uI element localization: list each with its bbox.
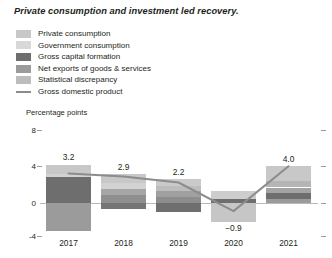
legend-swatch-government-consumption	[16, 41, 31, 49]
x-tick-label-2017: 2017	[39, 238, 99, 248]
legend-label-government-consumption: Government consumption	[38, 40, 130, 52]
legend-swatch-gross-capital-formation	[16, 53, 31, 61]
x-tick-label-2018: 2018	[94, 238, 154, 248]
x-tick-label-2020: 2020	[204, 238, 264, 248]
legend-label-net-exports: Net exports of goods & services	[38, 63, 151, 75]
legend-label-gross-capital-formation: Gross capital formation	[38, 51, 120, 63]
y-tick-mark-right-8	[321, 130, 326, 131]
legend-item-net-exports: Net exports of goods & services	[16, 63, 151, 75]
chart-title: Private consumption and investment led r…	[14, 6, 239, 16]
y-tick-mark-neg4	[37, 236, 42, 237]
y-tick-mark-right-neg4	[321, 236, 326, 237]
y-axis-title: Percentage points	[26, 108, 87, 117]
plot-area: 8 4 0 -4	[40, 126, 318, 236]
y-tick-label-8: 8	[14, 125, 36, 134]
y-tick-label-0: 0	[14, 198, 36, 207]
legend-swatch-statistical-discrepancy	[16, 76, 31, 84]
legend-swatch-net-exports	[16, 65, 31, 73]
data-label-2019: 2.2	[149, 167, 209, 177]
chart-page: Private consumption and investment led r…	[0, 0, 332, 258]
data-label-2021: 4.0	[259, 154, 319, 164]
y-tick-mark-right-0	[321, 203, 326, 204]
data-label-2017: 3.2	[39, 152, 99, 162]
legend-item-government-consumption: Government consumption	[16, 40, 151, 52]
y-tick-label-4: 4	[14, 162, 36, 171]
x-tick-label-2021: 2021	[259, 238, 319, 248]
legend-label-statistical-discrepancy: Statistical discrepancy	[38, 74, 117, 86]
data-label-2020: −0.9	[204, 223, 264, 233]
legend-item-gross-capital-formation: Gross capital formation	[16, 51, 151, 63]
y-tick-label-neg4: -4	[14, 232, 36, 241]
chart-legend: Private consumption Government consumpti…	[16, 28, 151, 98]
data-label-2018: 2.9	[94, 162, 154, 172]
y-tick-mark-right-4	[321, 166, 326, 167]
legend-item-statistical-discrepancy: Statistical discrepancy	[16, 74, 151, 86]
x-tick-label-2019: 2019	[149, 238, 209, 248]
legend-item-private-consumption: Private consumption	[16, 28, 151, 40]
legend-label-private-consumption: Private consumption	[38, 28, 110, 40]
legend-swatch-gross-domestic-product	[16, 91, 31, 93]
legend-swatch-private-consumption	[16, 30, 31, 38]
gdp-line-chart	[40, 126, 318, 236]
legend-label-gross-domestic-product: Gross domestic product	[38, 86, 122, 98]
legend-item-gross-domestic-product: Gross domestic product	[16, 86, 151, 98]
